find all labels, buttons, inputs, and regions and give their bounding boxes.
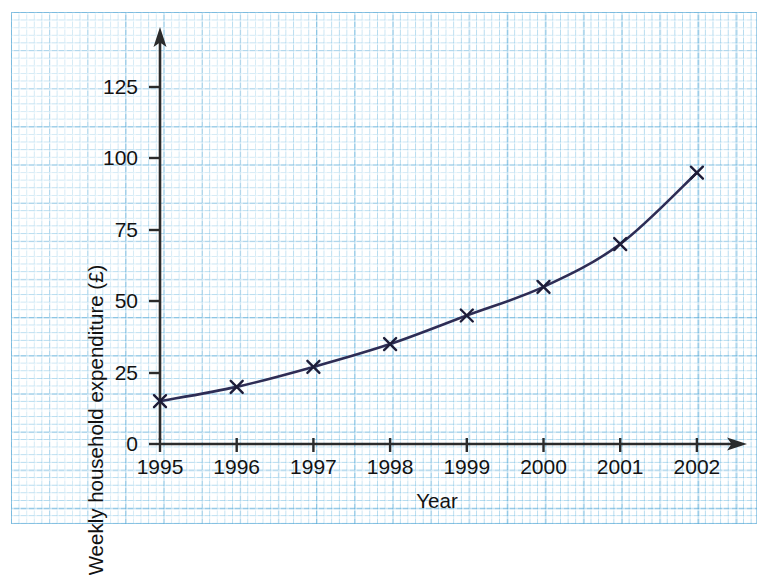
x-tick-label-1995: 1995 (137, 455, 184, 479)
x-tick-label-1999: 1999 (443, 455, 490, 479)
data-line-series-1 (160, 173, 697, 401)
data-point-markers (154, 167, 703, 407)
y-tick-label-100: 100 (96, 146, 138, 170)
x-tick-label-1997: 1997 (290, 455, 337, 479)
y-tick-label-125: 125 (96, 75, 138, 99)
data-point-marker-2000 (538, 281, 550, 293)
data-point-marker-1998 (384, 338, 396, 350)
x-tick-label-1998: 1998 (367, 455, 414, 479)
data-point-marker-2002 (691, 167, 703, 179)
y-tick-label-75: 75 (96, 218, 138, 242)
data-point-marker-1999 (461, 309, 473, 321)
x-tick-label-1996: 1996 (213, 455, 260, 479)
x-axis-title: Year (416, 489, 457, 513)
data-point-marker-2001 (614, 238, 626, 250)
y-axis-title: Weekly household expenditure (£) (84, 265, 108, 575)
x-tick-label-2001: 2001 (597, 455, 644, 479)
x-tick-label-2000: 2000 (520, 455, 567, 479)
x-tick-label-2002: 2002 (674, 455, 721, 479)
